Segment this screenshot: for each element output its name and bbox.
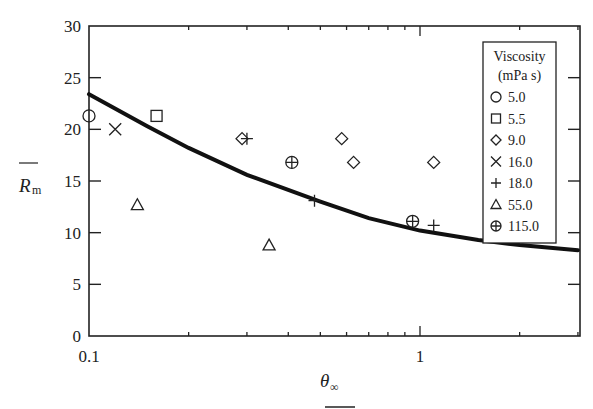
chart: 051015202530 0.11 Viscosity(mPa s)5.05.5… xyxy=(0,0,593,409)
legend-entry-label: 115.0 xyxy=(508,219,539,234)
xlabel-theta: θ xyxy=(320,370,329,391)
legend-entry-label: 55.0 xyxy=(508,198,533,213)
legend-title: Viscosity xyxy=(493,49,545,64)
legend-entry-label: 5.5 xyxy=(508,112,526,127)
y-tick-label: 10 xyxy=(64,224,81,243)
y-tick-label: 5 xyxy=(73,275,82,294)
y-tick-label: 25 xyxy=(64,69,81,88)
y-tick-label: 30 xyxy=(64,17,81,36)
y-tick-label: 20 xyxy=(64,120,81,139)
diamond-marker xyxy=(348,156,360,168)
legend-units: (mPa s) xyxy=(498,68,542,84)
axis-labels: R m θ ∞ xyxy=(18,163,355,407)
legend-entry-label: 5.0 xyxy=(508,90,526,105)
x-marker xyxy=(109,123,121,135)
ylabel-R: R xyxy=(18,175,31,196)
y-tick-label: 0 xyxy=(73,327,82,346)
legend-entry-label: 16.0 xyxy=(508,155,533,170)
xlabel-sub: ∞ xyxy=(330,380,339,394)
x-tick-label: 0.1 xyxy=(78,347,99,366)
x-tick-label: 1 xyxy=(416,347,425,366)
triangle-marker xyxy=(131,199,143,210)
legend-entry-label: 9.0 xyxy=(508,133,526,148)
plus-marker xyxy=(428,219,440,231)
ylabel-sub: m xyxy=(32,183,42,197)
square-marker xyxy=(151,110,162,121)
legend: Viscosity(mPa s)5.05.59.016.018.055.0115… xyxy=(483,42,556,243)
plus-marker xyxy=(241,133,253,145)
legend-entry-label: 18.0 xyxy=(508,176,533,191)
diamond-marker xyxy=(428,156,440,168)
y-tick-label: 15 xyxy=(64,172,81,191)
diamond-marker xyxy=(336,133,348,145)
triangle-marker xyxy=(263,239,275,250)
